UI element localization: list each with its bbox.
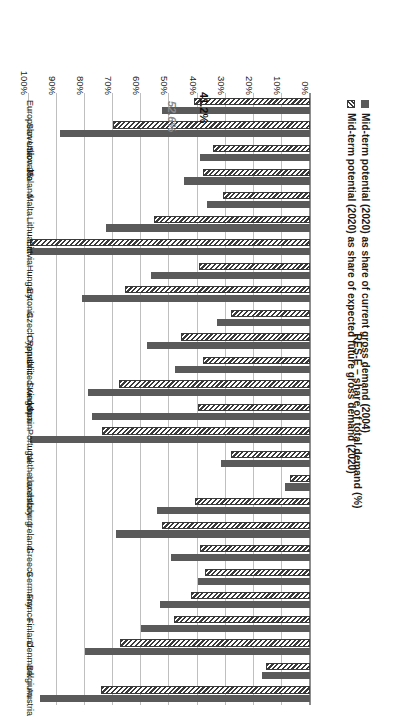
chart-rotated-container: RES-E – share of total demand (%) 0%10%2… [0,0,396,727]
bar-future[interactable] [120,639,310,646]
bar-current[interactable] [175,366,310,373]
bar-future[interactable] [198,404,310,411]
legend-item[interactable]: Mid-term potential (2020) as share of ex… [346,100,357,474]
hatched-square-swatch [347,100,355,108]
category-label: Lithuania [25,217,35,254]
bar-future[interactable] [125,286,310,293]
bar-current[interactable] [207,201,310,208]
bar-future[interactable] [30,239,310,246]
bar-current[interactable] [198,578,310,585]
bar-row [29,587,310,611]
bar-current[interactable] [160,601,310,608]
bar-row [29,517,310,541]
x-tick-label: 20% [244,49,255,95]
bar-future[interactable] [102,428,310,435]
x-tick-label: 10% [272,49,283,95]
bar-row [29,328,310,352]
bar-current[interactable] [82,295,310,302]
value-callout-current: 52.6% [166,101,178,132]
bar-row [29,258,310,282]
bar-row [29,611,310,635]
bar-future[interactable] [203,169,310,176]
bar-row [29,564,310,588]
bar-row [29,164,310,188]
bar-current[interactable] [30,436,310,443]
x-tick-label: 0% [300,49,311,95]
bar-future[interactable] [199,263,310,270]
bar-future[interactable] [194,98,310,105]
x-tick-label: 30% [216,49,227,95]
bar-row [29,658,310,682]
bar-future[interactable] [223,192,310,199]
solid-square-swatch [361,100,369,108]
bar-current[interactable] [141,625,310,632]
chart-legend: Mid-term potential (2020) as share of cu… [314,111,360,671]
bar-current[interactable] [92,413,310,420]
bar-current[interactable] [217,319,310,326]
bar-future[interactable] [290,475,310,482]
bar-row [29,423,310,447]
bar-future[interactable] [205,569,310,576]
bar-row [29,187,310,211]
bar-current[interactable] [285,483,310,490]
x-tick-label: 60% [131,49,142,95]
bar-current[interactable] [40,695,310,702]
x-tick-label: 50% [160,49,171,95]
bar-current[interactable] [184,177,310,184]
bar-row [29,305,310,329]
bar-chart-figure: RES-E – share of total demand (%) 0%10%2… [0,0,396,727]
plot-area: 52.6%41.2% [29,93,311,705]
bar-future[interactable] [181,333,310,340]
bar-current[interactable] [222,460,311,467]
bar-future[interactable] [231,451,310,458]
category-label: Greece [25,547,35,577]
category-label: European Union 25 [25,100,35,178]
bar-row [29,352,310,376]
bar-future[interactable] [195,498,310,505]
bar-current[interactable] [262,672,310,679]
bar-future[interactable] [213,145,310,152]
category-label: Ireland [25,523,35,551]
value-callout-future: 41.2% [198,92,210,123]
bar-current[interactable] [88,389,310,396]
legend-label: Mid-term potential (2020) as share of cu… [360,113,371,433]
bar-future[interactable] [113,122,310,129]
category-axis-labels: AustriaBelgiumDenmarkFinlandFranceGerman… [0,93,30,705]
bar-current[interactable] [162,107,310,114]
category-label: Portugal [25,429,35,463]
bar-future[interactable] [119,380,310,387]
bar-current[interactable] [147,342,310,349]
bar-future[interactable] [174,616,310,623]
legend-item[interactable]: Mid-term potential (2020) as share of cu… [360,100,371,433]
bar-row [29,281,310,305]
bar-current[interactable] [85,648,310,655]
bar-current[interactable] [157,507,310,514]
bar-current[interactable] [171,554,310,561]
bar-row [29,234,310,258]
bar-current[interactable] [151,272,310,279]
bar-row [29,681,310,705]
bar-current[interactable] [116,530,310,537]
bar-future[interactable] [200,545,310,552]
bar-future[interactable] [231,310,310,317]
bar-row [29,446,310,470]
category-label: Finland [25,618,35,648]
bar-row [29,399,310,423]
x-tick-label: 90% [47,49,58,95]
bar-future[interactable] [162,522,310,529]
bar-row [29,634,310,658]
bar-future[interactable] [154,216,310,223]
category-label: Czech Republic [25,312,35,375]
bar-future[interactable] [101,686,310,693]
bar-row [29,493,310,517]
bar-future[interactable] [191,592,310,599]
bar-row [29,140,310,164]
bar-row [29,470,310,494]
bar-current[interactable] [200,154,310,161]
bar-current[interactable] [30,248,310,255]
bar-row [29,375,310,399]
bar-future[interactable] [266,663,310,670]
bar-current[interactable] [106,224,310,231]
bar-current[interactable] [60,130,310,137]
bar-future[interactable] [203,357,310,364]
